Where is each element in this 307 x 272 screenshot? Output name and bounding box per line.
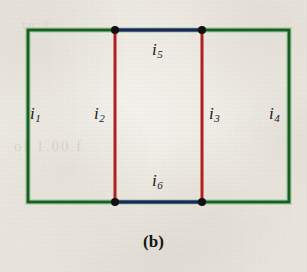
current-subscript-i3: 3 — [214, 112, 220, 124]
node-bottom-left — [111, 198, 119, 206]
current-subscript-i5: 5 — [157, 48, 163, 60]
current-label-i3: i3 — [209, 105, 219, 122]
node-top-left — [111, 26, 119, 34]
figure-container: of 1.00 f to 2 i1 i2 i3 i4 i5 i6 (b) — [0, 0, 307, 272]
figure-caption: (b) — [0, 232, 307, 252]
current-label-i2: i2 — [94, 105, 104, 122]
current-subscript-i1: 1 — [35, 112, 41, 124]
current-subscript-i2: 2 — [99, 112, 105, 124]
current-label-i6: i6 — [152, 172, 162, 189]
current-label-i5: i5 — [152, 41, 162, 58]
current-label-i4: i4 — [269, 105, 279, 122]
current-subscript-i4: 4 — [274, 112, 280, 124]
node-top-right — [198, 26, 206, 34]
current-subscript-i6: 6 — [157, 179, 163, 191]
current-label-i1: i1 — [30, 105, 40, 122]
node-bottom-right — [198, 198, 206, 206]
